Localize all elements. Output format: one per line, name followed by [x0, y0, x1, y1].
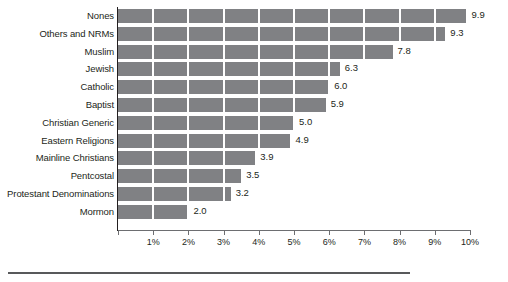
bar-value-label: 7.8 — [398, 44, 411, 58]
bar-value-label: 2.0 — [193, 204, 206, 218]
bar — [118, 205, 188, 219]
bar-row: 2.0 — [118, 205, 470, 219]
x-axis-tick — [294, 231, 295, 235]
bar-row: 9.3 — [118, 27, 470, 41]
x-axis-tick-label: 9% — [428, 237, 441, 247]
bar-row: 9.9 — [118, 9, 470, 23]
category-label: Christian Generic — [2, 116, 114, 130]
x-axis-tick-label: 8% — [393, 237, 406, 247]
x-axis-tick-label: 4% — [252, 237, 265, 247]
x-axis-tick-label: 5% — [287, 237, 300, 247]
x-axis-tick — [153, 231, 154, 235]
category-label: Baptist — [2, 98, 114, 112]
x-axis-tick-label: 1% — [147, 237, 160, 247]
x-axis-tick — [224, 231, 225, 235]
category-label: Others and NRMs — [2, 27, 114, 41]
x-axis-tick-label: 7% — [358, 237, 371, 247]
x-axis-tick — [188, 231, 189, 235]
category-label: Pentcostal — [2, 169, 114, 183]
bar-value-label: 3.5 — [246, 168, 259, 182]
x-axis-tick-label: 6% — [323, 237, 336, 247]
bar — [118, 169, 241, 183]
category-label: Eastern Religions — [2, 134, 114, 148]
bar-value-label: 6.0 — [334, 79, 347, 93]
category-label: Muslim — [2, 45, 114, 59]
bar-value-label: 4.9 — [295, 133, 308, 147]
y-axis-line — [117, 7, 118, 231]
bar-row: 6.0 — [118, 80, 470, 94]
bar-value-label: 3.9 — [260, 150, 273, 164]
plot-area: 9.99.37.86.36.05.95.04.93.93.53.22.0 — [118, 9, 470, 222]
bar-row: 3.2 — [118, 187, 470, 201]
bar-value-label: 6.3 — [345, 61, 358, 75]
category-label: Catholic — [2, 80, 114, 94]
footer-divider-rule — [8, 272, 410, 274]
bar-row: 5.9 — [118, 98, 470, 112]
category-label: Mormon — [2, 205, 114, 219]
bar-row: 3.5 — [118, 169, 470, 183]
x-axis-tick — [364, 231, 365, 235]
bar-value-label: 5.0 — [299, 115, 312, 129]
x-axis-tick-label: 2% — [182, 237, 195, 247]
bar-row: 6.3 — [118, 62, 470, 76]
bar — [118, 9, 466, 23]
category-axis-labels: NonesOthers and NRMsMuslimJewishCatholic… — [0, 9, 114, 222]
x-axis-tick — [329, 231, 330, 235]
bar-row: 4.9 — [118, 134, 470, 148]
bar — [118, 45, 393, 59]
bar-row: 3.9 — [118, 151, 470, 165]
x-axis-tick — [118, 231, 119, 235]
bar-row: 5.0 — [118, 116, 470, 130]
x-axis-tick — [435, 231, 436, 235]
bar-value-label: 9.3 — [450, 26, 463, 40]
x-axis-tick-label: 3% — [217, 237, 230, 247]
x-axis-tick-label: 10% — [461, 237, 479, 247]
x-axis-tick — [470, 231, 471, 235]
category-label: Nones — [2, 9, 114, 23]
bar — [118, 134, 290, 148]
bar-row: 7.8 — [118, 45, 470, 59]
category-label: Jewish — [2, 62, 114, 76]
category-label: Mainline Christians — [2, 151, 114, 165]
bar — [118, 62, 340, 76]
bar — [118, 80, 329, 94]
bar-chart-figure: NonesOthers and NRMsMuslimJewishCatholic… — [0, 0, 508, 282]
bar — [118, 151, 255, 165]
bar — [118, 98, 326, 112]
bar-value-label: 5.9 — [331, 97, 344, 111]
bar-value-label: 9.9 — [471, 8, 484, 22]
category-label: Protestant Denominations — [2, 187, 114, 201]
bar — [118, 187, 231, 201]
bar — [118, 116, 294, 130]
x-axis-tick — [400, 231, 401, 235]
x-axis-tick — [259, 231, 260, 235]
bar — [118, 27, 445, 41]
bar-value-label: 3.2 — [236, 186, 249, 200]
